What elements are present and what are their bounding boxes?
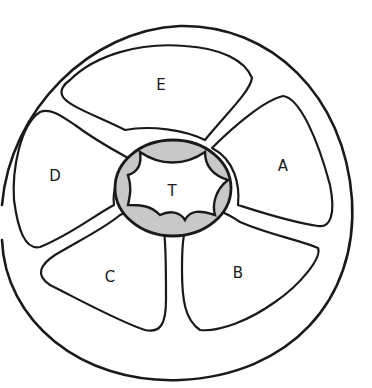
wheel-diagram: E A B C D T [0,0,372,388]
sector-e-label: E [156,76,165,94]
sector-c-label: C [105,268,115,286]
hub: T [115,140,231,236]
sector-a-label: A [278,157,289,175]
sector-d: D [14,111,128,247]
sector-e: E [61,45,252,140]
sector-d-label: D [49,167,61,185]
hub-label: T [166,182,177,200]
sector-a: A [212,96,332,226]
sector-b-label: B [233,264,243,282]
